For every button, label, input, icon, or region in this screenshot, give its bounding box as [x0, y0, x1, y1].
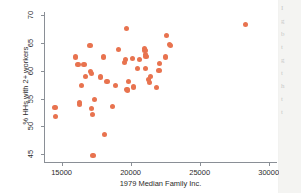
- scatter-point: [157, 61, 162, 66]
- scatter-point: [75, 62, 80, 67]
- scatter-point: [87, 43, 92, 48]
- scatter-point: [104, 79, 109, 84]
- scatter-point: [53, 114, 58, 119]
- margin-text-line: t: [281, 69, 283, 77]
- y-axis-tick: [41, 154, 45, 155]
- x-axis-tick: [62, 162, 63, 166]
- scatter-point: [126, 79, 131, 84]
- scatter-point: [154, 85, 159, 90]
- scatter-point: [92, 97, 97, 102]
- x-axis-label: 1979 Median Family Inc.: [44, 179, 277, 188]
- x-axis-tick-label: 20000: [109, 168, 153, 177]
- y-axis-tick: [41, 71, 45, 72]
- x-axis-tick: [131, 162, 132, 166]
- scatter-point: [89, 106, 94, 111]
- margin-text-line: t: [281, 108, 283, 116]
- scatter-points-layer: [45, 12, 277, 162]
- scatter-point: [113, 83, 118, 88]
- page-margin-text: Igbtgthtt: [279, 0, 301, 193]
- margin-text-line: g: [281, 56, 285, 64]
- scatter-point: [135, 66, 140, 71]
- scatter-point: [89, 71, 94, 76]
- scatter-point: [90, 153, 95, 158]
- scatter-point: [156, 68, 161, 73]
- scatter-point: [102, 132, 107, 137]
- margin-text-line: h: [281, 82, 285, 90]
- scatter-point: [131, 84, 136, 89]
- y-axis-tick: [41, 126, 45, 127]
- scatter-point: [143, 66, 148, 71]
- scatter-point: [90, 112, 95, 117]
- scatter-point: [125, 88, 130, 93]
- scatter-point: [147, 80, 152, 85]
- scatter-point: [83, 74, 88, 79]
- scatter-point: [123, 57, 128, 62]
- scatter-point: [137, 57, 142, 62]
- margin-text-line: I: [281, 4, 283, 12]
- plot-frame: 455055606570 15000200002500030000 % HHs …: [44, 12, 277, 163]
- scatter-point: [73, 54, 78, 59]
- scatter-point: [164, 33, 169, 38]
- x-axis-tick-label: 15000: [40, 168, 84, 177]
- y-axis-label: % HHs with 2+ workers: [21, 11, 30, 161]
- scatter-point: [163, 54, 168, 59]
- x-axis-tick: [269, 162, 270, 166]
- scatter-point: [81, 62, 86, 67]
- plot-card: 455055606570 15000200002500030000 % HHs …: [4, 3, 276, 189]
- scatter-point: [98, 74, 103, 79]
- scatter-point: [79, 83, 84, 88]
- scatter-point: [143, 54, 148, 59]
- x-axis-tick: [200, 162, 201, 166]
- y-axis-tick: [41, 99, 45, 100]
- margin-text-line: t: [281, 43, 283, 51]
- y-axis-tick: [41, 43, 45, 44]
- margin-text-line: b: [281, 30, 285, 38]
- scatter-point: [116, 47, 121, 52]
- scatter-point: [130, 56, 135, 61]
- scatter-plot-figure: 455055606570 15000200002500030000 % HHs …: [0, 0, 278, 193]
- margin-text-line: t: [281, 95, 283, 103]
- scatter-point: [77, 102, 82, 107]
- scatter-point: [101, 54, 106, 59]
- scatter-point: [243, 22, 248, 27]
- figure-screenshot: 455055606570 15000200002500030000 % HHs …: [0, 0, 301, 193]
- scatter-point: [110, 104, 115, 109]
- scatter-point: [124, 26, 129, 31]
- scatter-point: [168, 43, 173, 48]
- scatter-point: [52, 105, 57, 110]
- scatter-point: [148, 74, 153, 79]
- x-axis-tick-label: 25000: [178, 168, 222, 177]
- margin-text-line: g: [281, 17, 285, 25]
- y-axis-tick: [41, 15, 45, 16]
